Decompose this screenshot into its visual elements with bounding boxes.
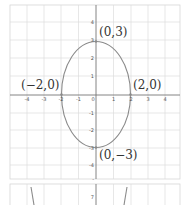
svg-text:-1: -1 (89, 110, 94, 116)
svg-text:-4: -4 (89, 162, 94, 168)
svg-text:-1: -1 (76, 96, 81, 102)
svg-text:-2: -2 (59, 96, 64, 102)
lower-plot-area (10, 184, 180, 205)
svg-text:0: 0 (91, 96, 94, 102)
svg-text:-4: -4 (25, 96, 30, 102)
svg-text:2: 2 (91, 55, 94, 61)
ellipse-chart: -4 -3 -2 -1 0 1 2 3 4 4 3 2 1 -1 -2 -3 -… (0, 0, 185, 205)
label-left-vertex: (−2,0) (21, 78, 60, 92)
svg-text:4: 4 (163, 96, 166, 102)
label-right-vertex: (2,0) (133, 78, 161, 92)
svg-text:2: 2 (129, 96, 132, 102)
upper-plot-area (10, 5, 180, 179)
svg-text:-3: -3 (42, 96, 47, 102)
svg-text:-2: -2 (89, 127, 94, 133)
svg-text:-3: -3 (89, 145, 94, 151)
lower-y-tick: 7 (91, 194, 94, 200)
label-top-vertex: (0,3) (99, 25, 127, 39)
svg-text:3: 3 (91, 37, 94, 43)
svg-text:-: - (92, 176, 94, 182)
svg-text:1: 1 (112, 96, 115, 102)
svg-text:4: 4 (91, 19, 94, 25)
label-bottom-vertex: (0,−3) (99, 148, 138, 162)
svg-text:1: 1 (91, 73, 94, 79)
svg-text:3: 3 (146, 96, 149, 102)
